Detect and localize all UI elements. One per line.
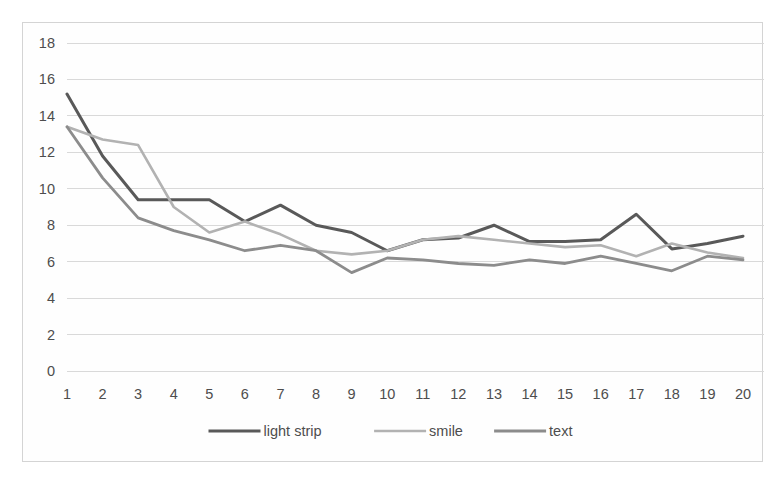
y-tick-label: 16: [39, 71, 55, 87]
x-tick-label: 2: [99, 386, 107, 402]
x-tick-label: 11: [415, 386, 430, 402]
gridlines: [67, 43, 764, 371]
x-tick-label: 14: [521, 386, 537, 402]
x-tick-label: 4: [170, 386, 178, 402]
x-tick-label: 16: [593, 386, 609, 402]
x-tick-label: 3: [134, 386, 142, 402]
x-tick-label: 6: [241, 386, 249, 402]
x-tick-label: 15: [557, 386, 573, 402]
x-tick-label: 20: [735, 386, 751, 402]
chart-frame: 024681012141618 123456789101112131415161…: [22, 22, 763, 462]
y-tick-label: 0: [47, 363, 55, 379]
series-line-light-strip: [67, 94, 743, 251]
x-tick-label: 10: [379, 386, 395, 402]
y-tick-label: 10: [39, 181, 55, 197]
x-tick-label: 5: [205, 386, 213, 402]
x-tick-label: 13: [486, 386, 502, 402]
x-tick-label: 19: [699, 386, 715, 402]
x-axis-tick-labels: 1234567891011121314151617181920: [63, 386, 751, 402]
series-lines: [67, 94, 743, 273]
chart-legend: light stripsmiletext: [209, 423, 573, 439]
y-tick-label: 12: [39, 144, 55, 160]
y-tick-label: 18: [39, 35, 55, 51]
legend-label-light-strip: light strip: [264, 423, 322, 439]
x-tick-label: 9: [348, 386, 356, 402]
y-tick-label: 14: [39, 108, 55, 124]
y-axis-tick-labels: 024681012141618: [39, 35, 55, 379]
x-tick-label: 18: [664, 386, 680, 402]
legend-label-text: text: [549, 423, 572, 439]
line-chart: 024681012141618 123456789101112131415161…: [23, 23, 764, 463]
y-tick-label: 8: [47, 217, 55, 233]
series-line-smile: [67, 127, 743, 258]
x-tick-label: 8: [312, 386, 320, 402]
y-tick-label: 4: [47, 290, 55, 306]
legend-label-smile: smile: [429, 423, 463, 439]
y-tick-label: 2: [47, 327, 55, 343]
x-tick-label: 1: [63, 386, 71, 402]
x-tick-label: 17: [628, 386, 644, 402]
x-tick-label: 7: [276, 386, 284, 402]
x-tick-label: 12: [450, 386, 466, 402]
y-tick-label: 6: [47, 254, 55, 270]
